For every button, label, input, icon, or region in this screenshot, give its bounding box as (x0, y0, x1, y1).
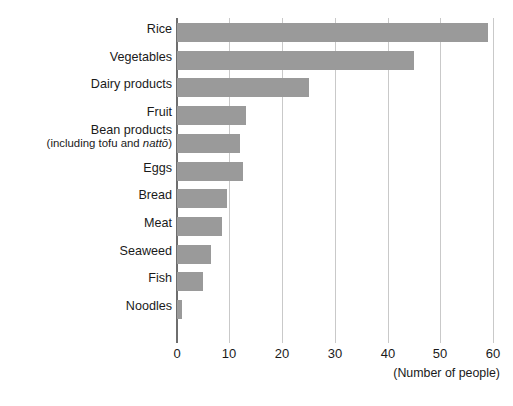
x-tick-40: 40 (368, 346, 408, 361)
bar-noodles (177, 300, 182, 319)
category-label-meat: Meat (0, 217, 172, 231)
bean-products-sub-suffix: ) (168, 137, 172, 149)
bean-products-sub-prefix: (including tofu and (47, 137, 143, 149)
bar-chart: Rice Vegetables Dairy products Fruit Bea… (0, 0, 513, 406)
category-label-fruit: Fruit (0, 106, 172, 120)
plot-area: Rice Vegetables Dairy products Fruit Bea… (0, 0, 513, 406)
bar-eggs (177, 162, 243, 181)
category-label-rice: Rice (0, 23, 172, 37)
bar-row-noodles: Noodles (0, 296, 513, 324)
category-label-seaweed: Seaweed (0, 245, 172, 259)
category-label-bean-products: Bean products (including tofu and nattō) (0, 124, 172, 151)
bar-row-eggs: Eggs (0, 158, 513, 186)
category-label-vegetables: Vegetables (0, 51, 172, 65)
bar-row-bean-products: Bean products (including tofu and nattō) (0, 130, 513, 158)
bar-row-dairy-products: Dairy products (0, 74, 513, 102)
x-tick-30: 30 (315, 346, 355, 361)
category-label-dairy-products: Dairy products (0, 78, 172, 92)
bar-meat (177, 217, 222, 236)
bar-row-meat: Meat (0, 213, 513, 241)
x-tick-50: 50 (420, 346, 460, 361)
bar-rice (177, 23, 488, 42)
bar-row-vegetables: Vegetables (0, 47, 513, 75)
x-tick-20: 20 (262, 346, 302, 361)
bar-bread (177, 189, 227, 208)
x-tick-10: 10 (209, 346, 249, 361)
category-label-bread: Bread (0, 189, 172, 203)
bar-row-rice: Rice (0, 19, 513, 47)
bar-row-fish: Fish (0, 268, 513, 296)
bar-bean-products (177, 134, 240, 153)
bean-products-main-label: Bean products (91, 123, 172, 137)
bar-seaweed (177, 245, 211, 264)
bar-dairy-products (177, 78, 309, 97)
bar-vegetables (177, 51, 414, 70)
x-tick-0: 0 (157, 346, 197, 361)
x-axis-caption: (Number of people) (300, 366, 500, 380)
category-label-fish: Fish (0, 272, 172, 286)
category-label-noodles: Noodles (0, 300, 172, 314)
bar-row-seaweed: Seaweed (0, 241, 513, 269)
bar-fish (177, 272, 203, 291)
bar-row-bread: Bread (0, 185, 513, 213)
bean-products-sublabel: (including tofu and nattō) (0, 137, 172, 150)
x-tick-60: 60 (473, 346, 513, 361)
bar-fruit (177, 106, 246, 125)
category-label-eggs: Eggs (0, 162, 172, 176)
bean-products-sub-italic: nattō (143, 137, 168, 149)
